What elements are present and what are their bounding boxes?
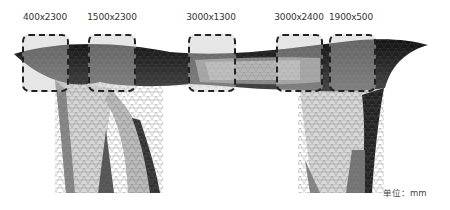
- pavilion-diagram: 400x2300 1500x2300 3000x1300 3000x2400 1…: [0, 0, 450, 210]
- annotation-box-4: [276, 34, 323, 92]
- dimension-label-2: 1500x2300: [87, 12, 136, 22]
- annotation-box-5: [329, 34, 376, 92]
- annotation-box-1: [22, 34, 69, 92]
- annotation-box-3: [188, 34, 236, 92]
- mesh-structure-drawing: [0, 0, 450, 210]
- unit-label: 单位：mm: [383, 186, 427, 198]
- annotation-box-2: [88, 34, 136, 92]
- dimension-label-5: 1900x500: [329, 12, 373, 22]
- dimension-label-1: 400x2300: [23, 12, 67, 22]
- dimension-label-3: 3000x1300: [186, 12, 235, 22]
- dimension-label-4: 3000x2400: [274, 12, 323, 22]
